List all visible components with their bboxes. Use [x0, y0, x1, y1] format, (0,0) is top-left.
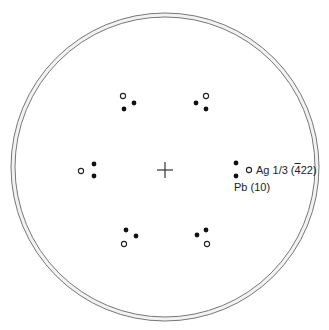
center-cross-icon	[157, 162, 173, 178]
pb-spot-icon	[234, 161, 239, 166]
pb-spot-icon	[92, 174, 97, 179]
pb-spot-icon	[204, 107, 209, 112]
spot-group-top-right	[194, 93, 209, 111]
pb-spot-icon	[122, 107, 127, 112]
pb-spot-icon	[92, 162, 97, 167]
pb-spot-icon	[124, 228, 129, 233]
ag-label: Ag 1/3 (422)	[256, 164, 317, 176]
pb-spot-icon	[204, 228, 209, 233]
pb-spot-icon	[194, 101, 199, 106]
spot-group-bottom-left	[121, 228, 138, 247]
spot-group-left	[78, 162, 96, 179]
ag-label-prefix: Ag 1/3 (	[256, 164, 295, 176]
pb-spot-icon	[132, 101, 137, 106]
spot-group-bottom-right	[195, 228, 210, 247]
ag-label-suffix: 22)	[301, 164, 317, 176]
ag-spot-icon	[78, 168, 83, 173]
pb-label: Pb (10)	[234, 181, 270, 193]
pb-spot-icon	[234, 174, 239, 179]
spot-group-top-left	[120, 93, 136, 111]
ag-spot-icon	[120, 93, 125, 98]
spot-group-right	[234, 161, 252, 179]
ag-spot-icon	[121, 241, 126, 246]
ag-spot-icon	[203, 93, 208, 98]
ag-spot-icon	[246, 167, 251, 172]
pb-spot-icon	[195, 233, 200, 238]
pb-spot-icon	[134, 234, 139, 239]
ag-spot-icon	[204, 241, 209, 246]
